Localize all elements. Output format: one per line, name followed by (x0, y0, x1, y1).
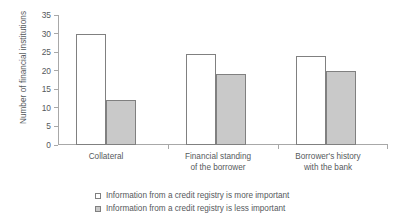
x-label-line: Collateral (56, 152, 156, 163)
legend-item-less-important: Information from a credit registry is le… (95, 202, 289, 215)
x-axis-separator (168, 145, 169, 149)
y-axis-line (58, 15, 59, 145)
x-label-line: of the borrower (168, 163, 268, 174)
bar-financial-standing-more (186, 54, 216, 145)
y-tick-mark-30 (54, 33, 58, 34)
y-tick-5: 5 (28, 121, 58, 131)
y-tick-mark-35 (54, 15, 58, 16)
legend-item-more-important: Information from a credit registry is mo… (95, 189, 289, 202)
x-axis-separator (278, 145, 279, 149)
y-tick-label-35: 35 (42, 10, 51, 20)
legend-swatch-icon-more (95, 193, 101, 199)
y-tick-label-30: 30 (42, 29, 51, 39)
y-tick-15: 15 (28, 84, 58, 94)
y-tick-35: 35 (28, 10, 58, 20)
plot-area: 0 5 10 15 20 25 30 35 (58, 15, 388, 145)
bar-collateral-less (106, 100, 136, 145)
bar-collateral-more (76, 34, 106, 145)
bar-chart: Number of financial institutions 0 5 10 … (0, 0, 407, 224)
y-tick-mark-25 (54, 52, 58, 53)
y-axis-title: Number of financial institutions (19, 0, 28, 143)
y-tick-10: 10 (28, 103, 58, 113)
chart-legend: Information from a credit registry is mo… (95, 189, 289, 215)
legend-label-less: Information from a credit registry is le… (106, 204, 285, 214)
x-label-line: Borrower's history (278, 152, 378, 163)
y-tick-30: 30 (28, 29, 58, 39)
x-axis-separator (387, 145, 388, 149)
y-tick-mark-0 (54, 145, 58, 146)
y-tick-label-25: 25 (42, 47, 51, 57)
x-label-borrower-history: Borrower's history with the bank (278, 152, 378, 173)
y-tick-25: 25 (28, 47, 58, 57)
bar-borrower-history-less (326, 71, 356, 145)
y-tick-label-0: 0 (46, 140, 51, 150)
legend-label-more: Information from a credit registry is mo… (106, 191, 289, 201)
y-tick-label-15: 15 (42, 84, 51, 94)
y-tick-mark-20 (54, 70, 58, 71)
bar-borrower-history-more (296, 56, 326, 145)
legend-swatch-icon-less (95, 206, 101, 212)
y-tick-label-20: 20 (42, 66, 51, 76)
y-tick-label-5: 5 (46, 121, 51, 131)
y-tick-label-10: 10 (42, 103, 51, 113)
x-label-collateral: Collateral (56, 152, 156, 163)
bar-financial-standing-less (216, 74, 246, 145)
y-tick-mark-10 (54, 107, 58, 108)
y-tick-mark-5 (54, 126, 58, 127)
y-tick-mark-15 (54, 89, 58, 90)
y-tick-20: 20 (28, 66, 58, 76)
x-label-line: with the bank (278, 163, 378, 174)
x-label-line: Financial standing (168, 152, 268, 163)
x-label-financial-standing: Financial standing of the borrower (168, 152, 268, 173)
y-tick-0: 0 (28, 140, 58, 150)
